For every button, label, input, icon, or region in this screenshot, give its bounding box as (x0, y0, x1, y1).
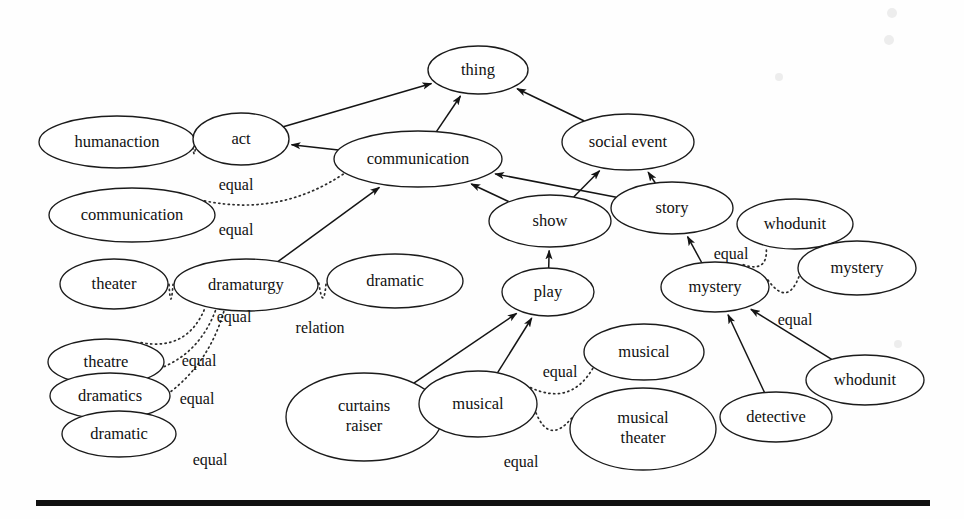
isa-edge-communication_c-to-thing (436, 96, 460, 132)
node-ellipse-whodunit_top[interactable] (737, 199, 853, 249)
node-musical_theater[interactable]: musicaltheater (570, 388, 716, 470)
edge-label-equal-musical_link: equal (504, 453, 539, 471)
isa-edge-communication_c-to-act (292, 145, 339, 150)
node-ellipse-humanaction[interactable] (39, 116, 195, 168)
isa-edge-musical_link-to-play (497, 318, 531, 373)
node-ellipse-communication_l[interactable] (49, 188, 215, 242)
ontology-graph: thinghumanactionactcommunicationsocial e… (0, 0, 964, 519)
isa-edge-story-to-social_event (648, 172, 655, 183)
edge-label-equal-humanaction: equal (219, 176, 254, 194)
bottom-rule (36, 500, 930, 506)
node-ellipse-story[interactable] (611, 182, 733, 234)
node-detective[interactable]: detective (720, 392, 832, 442)
node-show[interactable]: show (489, 195, 611, 247)
node-thing[interactable]: thing (428, 46, 528, 94)
equal-edge-mystery_left-to-mystery_right (768, 276, 799, 293)
isa-edge-mystery_left-to-story (688, 237, 702, 263)
equal-edge-theater-to-dramaturgy (169, 284, 173, 299)
edge-label-equal-mystery_left: equal (714, 245, 749, 263)
node-humanaction[interactable]: humanaction (39, 116, 195, 168)
node-ellipse-musical_solo[interactable] (584, 324, 704, 380)
node-ellipse-dramatic_bot[interactable] (62, 411, 176, 457)
figure-canvas: thinghumanactionactcommunicationsocial e… (0, 0, 964, 519)
isa-edge-act-to-thing (283, 84, 431, 127)
scan-artifact-2 (775, 73, 783, 81)
equal-edge-communication_l-to-communication_c (204, 173, 344, 205)
isa-edge-dramaturgy-to-communication_c (278, 187, 380, 261)
node-communication_l[interactable]: communication (49, 188, 215, 242)
node-whodunit_top[interactable]: whodunit (737, 199, 853, 249)
node-dramatic_mid[interactable]: dramatic (327, 254, 463, 308)
scan-artifact-layer (775, 8, 902, 348)
isa-edge-story-to-communication_c (495, 174, 616, 197)
node-ellipse-detective[interactable] (720, 392, 832, 442)
edge-label-equal-dramatics: equal (180, 390, 215, 408)
node-ellipse-whodunit_bottom[interactable] (806, 355, 924, 405)
node-ellipse-dramaturgy[interactable] (174, 259, 318, 311)
isa-edge-social_event-to-thing (517, 89, 584, 121)
edge-label-relation-dramaturgy: relation (296, 319, 345, 336)
isa-edge-detective-to-mystery_left (728, 315, 764, 393)
node-social_event[interactable]: social event (562, 114, 694, 170)
equal-edge-mystery_left-to-whodunit_top (743, 247, 766, 267)
node-ellipse-play[interactable] (502, 268, 594, 316)
node-ellipse-communication_c[interactable] (334, 131, 502, 187)
node-ellipse-musical_theater[interactable] (570, 388, 716, 470)
node-play[interactable]: play (502, 268, 594, 316)
equal-edge-musical_link-to-musical_theater (536, 413, 572, 431)
edge-label-equal-theatre: equal (182, 352, 217, 370)
node-musical_solo[interactable]: musical (584, 324, 704, 380)
node-layer: thinghumanactionactcommunicationsocial e… (39, 46, 924, 470)
scan-artifact-3 (894, 340, 902, 348)
isa-edge-show-to-communication_c (471, 184, 509, 202)
node-musical_link[interactable]: musical (419, 371, 537, 437)
scan-artifact-0 (887, 8, 897, 18)
edge-label-equal-communication_l: equal (219, 221, 254, 239)
node-ellipse-show[interactable] (489, 195, 611, 247)
node-whodunit_bottom[interactable]: whodunit (806, 355, 924, 405)
node-dramaturgy[interactable]: dramaturgy (174, 259, 318, 311)
node-story[interactable]: story (611, 182, 733, 234)
node-curtains_raiser[interactable]: curtainsraiser (286, 373, 442, 461)
node-ellipse-musical_link[interactable] (419, 371, 537, 437)
node-dramatic_bot[interactable]: dramatic (62, 411, 176, 457)
isa-edge-whodunit_bottom-to-mystery_left (751, 309, 832, 359)
node-ellipse-act[interactable] (193, 113, 289, 165)
node-communication_c[interactable]: communication (334, 131, 502, 187)
node-ellipse-mystery_left[interactable] (661, 262, 769, 312)
node-ellipse-social_event[interactable] (562, 114, 694, 170)
edge-label-equal-musical_link: equal (543, 363, 578, 381)
node-theater[interactable]: theater (60, 259, 168, 309)
node-act[interactable]: act (193, 113, 289, 165)
node-ellipse-theater[interactable] (60, 259, 168, 309)
relation-edge-dramaturgy-to-dramatic_mid (319, 283, 326, 298)
node-ellipse-mystery_right[interactable] (798, 241, 916, 295)
node-ellipse-thing[interactable] (428, 46, 528, 94)
edge-label-equal-dramatic_bot: equal (193, 451, 228, 469)
node-mystery_right[interactable]: mystery (798, 241, 916, 295)
equal-edge-musical_link-to-musical_solo (531, 368, 594, 394)
node-ellipse-dramatic_mid[interactable] (327, 254, 463, 308)
node-ellipse-curtains_raiser[interactable] (286, 373, 442, 461)
edge-label-equal-mystery_left: equal (778, 311, 813, 329)
equal-edge-theatre-to-dramaturgy (141, 307, 205, 344)
node-mystery_left[interactable]: mystery (661, 262, 769, 312)
scan-artifact-1 (884, 35, 894, 45)
